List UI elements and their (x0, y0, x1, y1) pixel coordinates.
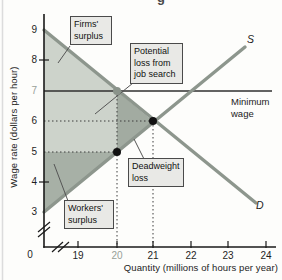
callout-potential-loss: Potential loss from job search (130, 43, 183, 84)
callout-deadweight-loss-line2: loss (132, 173, 180, 185)
x-tick-23: 23 (218, 251, 238, 261)
callout-firms-surplus-line1: Firms' (74, 19, 108, 31)
dot-labor-demanded-at-minimum-wage (113, 87, 121, 95)
y-tick-7: 7 (23, 86, 37, 96)
dot-equilibrium (149, 117, 157, 125)
x-tick-24: 24 (256, 251, 276, 261)
callout-deadweight-loss: Deadweight loss (128, 158, 184, 187)
dot-supply-price (113, 148, 121, 156)
y-tick-3: 3 (23, 207, 37, 217)
deadweight-loss-region (117, 91, 153, 152)
y-tick-4: 4 (23, 177, 37, 187)
callout-potential-loss-line2: loss from (134, 58, 179, 70)
y-tick-9: 9 (23, 25, 37, 35)
x-axis-title: Quantity (millions of hours per year) (85, 262, 278, 273)
callout-workers-surplus-line2: surplus (68, 215, 110, 227)
y-tick-6: 6 (23, 116, 37, 126)
y-tick-5: 5 (23, 147, 37, 157)
minimum-wage-chart: g (0, 0, 282, 280)
plot-svg (0, 0, 282, 280)
x-tick-21: 21 (143, 251, 163, 261)
minimum-wage-label-line1: Minimum (231, 96, 270, 108)
x-tick-20: 20 (107, 251, 127, 261)
callout-workers-surplus: Workers' surplus (64, 200, 114, 229)
x-tick-19: 19 (68, 251, 88, 261)
callout-firms-surplus: Firms' surplus (70, 16, 112, 45)
y-axis-title: Wage rate (dollars per hour) (8, 66, 19, 187)
callout-workers-surplus-line1: Workers' (68, 203, 110, 215)
origin-tick-0: 0 (24, 250, 36, 260)
callout-potential-loss-line3: job search (134, 69, 179, 81)
supply-curve-label: S (247, 33, 254, 45)
callout-firms-surplus-line2: surplus (74, 31, 108, 43)
callout-deadweight-loss-line1: Deadweight (132, 161, 180, 173)
minimum-wage-label: Minimum wage (231, 96, 270, 119)
demand-curve-label: D (256, 199, 264, 211)
callout-potential-loss-line1: Potential (134, 46, 179, 58)
x-tick-22: 22 (181, 251, 201, 261)
minimum-wage-label-line2: wage (231, 108, 270, 120)
y-tick-8: 8 (23, 55, 37, 65)
